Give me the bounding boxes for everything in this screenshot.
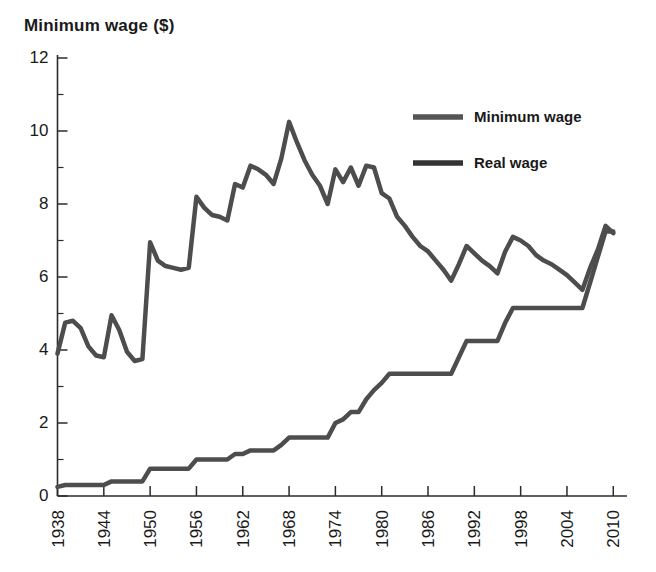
legend-label: Real wage bbox=[474, 154, 547, 171]
x-tick-label: 2010 bbox=[604, 510, 623, 548]
x-tick-label: 1938 bbox=[49, 510, 68, 548]
minimum-wage-line-chart: 024681012 193819441950195619621968197419… bbox=[0, 0, 656, 572]
x-tick-label: 1962 bbox=[234, 510, 253, 548]
x-axis-ticks bbox=[58, 486, 614, 496]
x-tick-label: 1998 bbox=[512, 510, 531, 548]
x-tick-label: 1950 bbox=[141, 510, 160, 548]
x-tick-label: 1986 bbox=[419, 510, 438, 548]
data-series-group bbox=[58, 122, 614, 487]
y-tick-label: 6 bbox=[39, 267, 48, 286]
x-tick-label: 2004 bbox=[558, 510, 577, 548]
y-tick-label: 4 bbox=[39, 340, 48, 359]
legend-label: Minimum wage bbox=[474, 108, 582, 125]
x-tick-label: 1956 bbox=[187, 510, 206, 548]
y-tick-label: 2 bbox=[39, 413, 48, 432]
x-tick-label: 1992 bbox=[465, 510, 484, 548]
y-axis-tick-labels: 024681012 bbox=[30, 48, 49, 505]
x-tick-label: 1974 bbox=[326, 510, 345, 548]
y-tick-label: 12 bbox=[30, 48, 49, 67]
chart-legend: Minimum wageReal wage bbox=[413, 108, 582, 171]
x-tick-label: 1968 bbox=[280, 510, 299, 548]
y-tick-label: 8 bbox=[39, 194, 48, 213]
y-axis-ticks bbox=[58, 58, 68, 496]
x-tick-label: 1980 bbox=[373, 510, 392, 548]
y-tick-label: 10 bbox=[30, 121, 49, 140]
x-axis-tick-labels: 1938194419501956196219681974198019861992… bbox=[49, 510, 624, 548]
chart-page: Minimum wage ($) 024681012 1938194419501… bbox=[0, 0, 656, 572]
x-tick-label: 1944 bbox=[95, 510, 114, 548]
y-tick-label: 0 bbox=[39, 486, 48, 505]
